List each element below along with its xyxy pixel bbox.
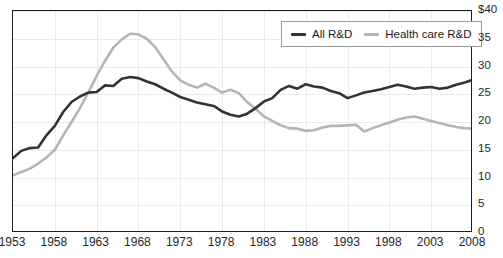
x-axis-tick-label: 2008 [459, 236, 486, 249]
legend-swatch-health-care-rd [364, 33, 379, 36]
x-axis-tick-label: 1988 [291, 236, 318, 249]
chart-screenshot: All R&D Health care R&D $403530252015105… [0, 0, 503, 258]
x-axis-tick-label: 1963 [82, 236, 109, 249]
legend-item-health-care-rd: Health care R&D [364, 28, 471, 40]
x-axis-tick-label: 1953 [0, 236, 25, 249]
clipped-title-fragment [72, 0, 272, 3]
y-axis-tick-label: 10 [478, 171, 491, 182]
x-axis-tick-label: 1993 [333, 236, 360, 249]
legend-item-all-rd: All R&D [291, 28, 352, 40]
y-axis-tick-label: 5 [478, 198, 484, 209]
y-axis-tick-label: 20 [478, 115, 491, 126]
legend-label-health-care-rd: Health care R&D [385, 28, 471, 40]
chart-legend: All R&D Health care R&D [281, 21, 482, 47]
y-axis-tick-label: 30 [478, 60, 491, 71]
y-axis-tick-label: 25 [478, 87, 491, 98]
x-axis-tick-label: 1968 [124, 236, 151, 249]
x-axis-tick-label: 1983 [250, 236, 277, 249]
x-axis-tick-label: 1973 [166, 236, 193, 249]
x-axis-tick-label: 2003 [417, 236, 444, 249]
line-health-care-rd [13, 34, 471, 176]
y-axis-tick-label: 15 [478, 143, 491, 154]
x-axis-tick-label: 1958 [40, 236, 67, 249]
y-axis-tick-label: 35 [478, 32, 491, 43]
y-axis-tick-label: $40 [478, 4, 497, 15]
legend-label-all-rd: All R&D [312, 28, 352, 40]
legend-swatch-all-rd [291, 33, 306, 36]
x-axis-tick-label: 1978 [208, 236, 235, 249]
x-axis-tick-label: 1998 [375, 236, 402, 249]
